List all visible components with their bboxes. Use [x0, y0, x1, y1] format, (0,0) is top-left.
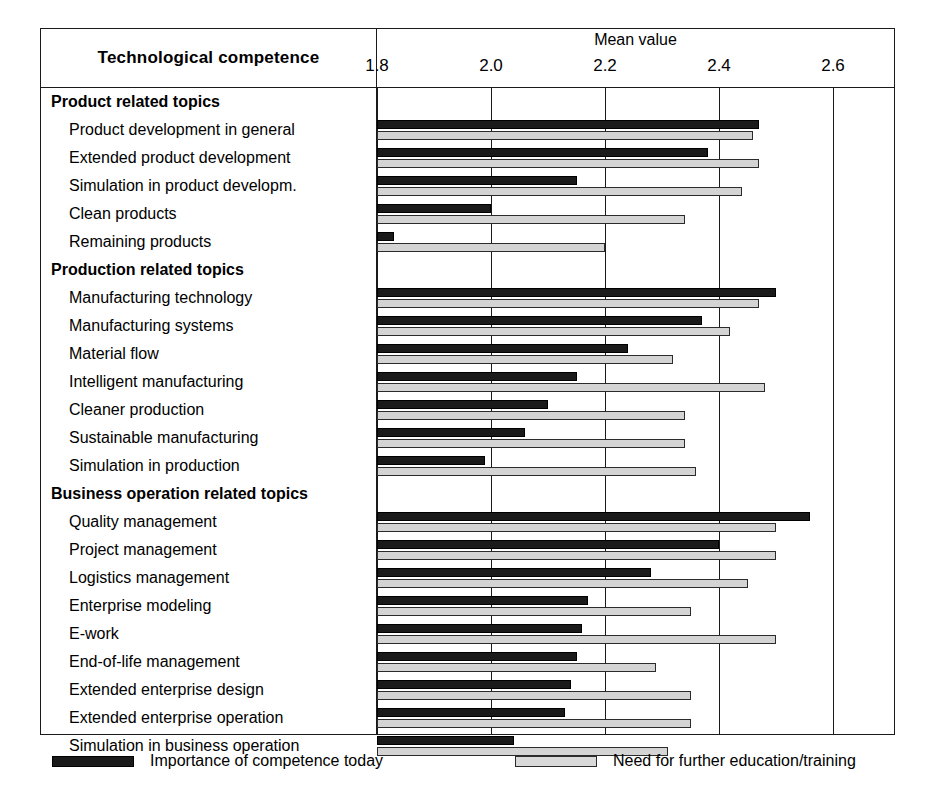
bar-pair [377, 452, 894, 480]
chart-body: Product related topicsProduct developmen… [41, 88, 894, 734]
bar-importance [377, 148, 708, 157]
bar-need [377, 635, 776, 644]
legend-item: Importance of competence today [52, 748, 383, 774]
bar-need [377, 663, 656, 672]
bar-importance [377, 204, 491, 213]
bar-importance [377, 316, 702, 325]
bar-importance [377, 708, 565, 717]
axis-tick-label: 2.6 [821, 56, 845, 76]
category-label: Logistics management [41, 564, 229, 592]
bar-need [377, 243, 605, 252]
bar-need [377, 579, 748, 588]
category-row: Logistics management [41, 564, 376, 592]
category-row: Sustainable manufacturing [41, 424, 376, 452]
row-header-label: Technological competence [98, 48, 320, 68]
bar-pair [377, 592, 894, 620]
bar-pair [377, 144, 894, 172]
axis-tick-label: 1.8 [365, 56, 389, 76]
category-label: Manufacturing technology [41, 284, 252, 312]
group-header-row: Business operation related topics [41, 480, 376, 508]
axis-title: Mean value [377, 31, 894, 49]
bar-pair [377, 648, 894, 676]
category-label: Sustainable manufacturing [41, 424, 258, 452]
axis-header-cell: Mean value 1.82.02.22.42.6 [377, 29, 894, 87]
bar-importance [377, 120, 759, 129]
category-row: Manufacturing systems [41, 312, 376, 340]
bar-pair [377, 284, 894, 312]
category-row: Remaining products [41, 228, 376, 256]
group-label: Business operation related topics [41, 480, 308, 508]
bar-pair [377, 508, 894, 536]
category-label: Manufacturing systems [41, 312, 234, 340]
category-label: Extended enterprise design [41, 676, 264, 704]
bar-need [377, 691, 691, 700]
category-label: Material flow [41, 340, 159, 368]
category-row: Extended enterprise operation [41, 704, 376, 732]
bar-pair [377, 228, 894, 256]
axis-tick-label: 2.2 [593, 56, 617, 76]
bar-need [377, 439, 685, 448]
bar-importance [377, 568, 651, 577]
bar-pair [377, 564, 894, 592]
category-row: Enterprise modeling [41, 592, 376, 620]
bar-importance [377, 624, 582, 633]
category-label: Project management [41, 536, 217, 564]
bar-importance [377, 540, 719, 549]
bar-need [377, 383, 765, 392]
group-header-row: Product related topics [41, 88, 376, 116]
chart-legend: Importance of competence todayNeed for f… [40, 748, 895, 782]
bar-pair [377, 200, 894, 228]
bar-pair [377, 620, 894, 648]
bar-pair [377, 312, 894, 340]
category-row: Manufacturing technology [41, 284, 376, 312]
category-row: Intelligent manufacturing [41, 368, 376, 396]
bar-pair [377, 424, 894, 452]
category-label: Extended product development [41, 144, 290, 172]
bar-importance [377, 428, 525, 437]
category-label-column: Product related topicsProduct developmen… [41, 88, 377, 734]
bar-need [377, 467, 696, 476]
category-row: Quality management [41, 508, 376, 536]
bar-importance [377, 176, 577, 185]
category-label: Enterprise modeling [41, 592, 211, 620]
bar-need [377, 131, 753, 140]
category-label: Simulation in production [41, 452, 240, 480]
bar-importance [377, 512, 810, 521]
plot-area [377, 88, 894, 734]
category-label: Remaining products [41, 228, 211, 256]
bar-need [377, 551, 776, 560]
category-row: End-of-life management [41, 648, 376, 676]
category-row: Extended enterprise design [41, 676, 376, 704]
bar-pair [377, 396, 894, 424]
category-row: Simulation in product developm. [41, 172, 376, 200]
bar-need [377, 411, 685, 420]
bar-importance [377, 680, 571, 689]
group-label: Product related topics [41, 88, 220, 116]
category-row: Extended product development [41, 144, 376, 172]
bar-need [377, 159, 759, 168]
bar-pair [377, 536, 894, 564]
category-label: Intelligent manufacturing [41, 368, 243, 396]
bar-need [377, 327, 730, 336]
bar-need [377, 523, 776, 532]
category-label: Simulation in product developm. [41, 172, 297, 200]
bar-importance [377, 372, 577, 381]
bar-pair [377, 116, 894, 144]
chart-header: Technological competence Mean value 1.82… [41, 29, 894, 88]
axis-tick-label: 2.4 [707, 56, 731, 76]
bar-pair [377, 340, 894, 368]
bar-importance [377, 344, 628, 353]
bar-need [377, 187, 742, 196]
chart-figure: Technological competence Mean value 1.82… [0, 0, 935, 798]
legend-label: Importance of competence today [150, 752, 383, 770]
group-label: Production related topics [41, 256, 244, 284]
bar-pair [377, 676, 894, 704]
group-header-row: Production related topics [41, 256, 376, 284]
bar-need [377, 215, 685, 224]
bar-pair [377, 368, 894, 396]
bar-importance [377, 736, 514, 745]
bar-importance [377, 652, 577, 661]
category-label: Quality management [41, 508, 217, 536]
legend-label: Need for further education/training [613, 752, 856, 770]
row-header-cell: Technological competence [41, 29, 377, 87]
